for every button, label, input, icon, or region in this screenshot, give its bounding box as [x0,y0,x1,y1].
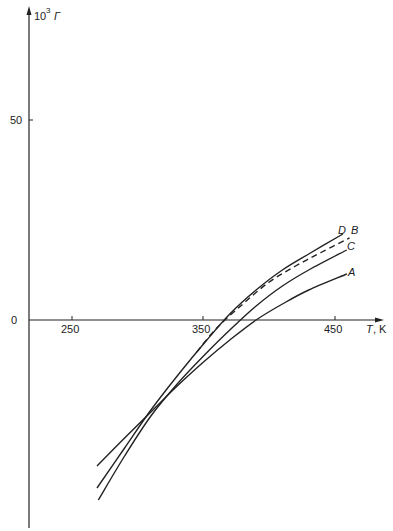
y-axis-title-base: 10 [34,10,46,22]
curve-label-D: D [338,224,346,236]
curve-C [98,250,346,500]
y-tick-label-50: 50 [10,114,22,126]
x-axis-arrow-icon [375,318,384,323]
y-axis-title-exp: 3 [46,6,51,15]
curves-group [97,234,350,500]
y-axis-title-symbol: Γ [54,10,61,22]
x-tick-label-350: 350 [192,323,210,335]
y-tick-label-0: 0 [11,314,17,326]
y-axis-arrow-icon [27,6,32,15]
x-axis-title-unit: , K [373,323,387,335]
x-tick-label-450: 450 [324,323,342,335]
curve-label-B: B [351,224,358,236]
curve-label-A: A [347,266,355,278]
curve-A [97,274,347,466]
chart-canvas: 50 0 250 350 450 10 3 Γ T , K D B C A [0,0,393,531]
x-tick-label-250: 250 [61,323,79,335]
curve-label-C: C [347,240,355,252]
